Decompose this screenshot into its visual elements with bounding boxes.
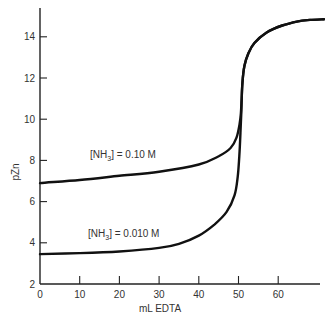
curves xyxy=(40,19,324,254)
x-tick-label: 40 xyxy=(193,289,205,300)
x-tick-label: 60 xyxy=(273,289,285,300)
x-tick-label: 30 xyxy=(154,289,166,300)
y-tick-label: 2 xyxy=(29,279,35,290)
curve-nh3-0.10M xyxy=(40,19,324,183)
titration-chart: 2468101214 0102030405060 [NH3] = 0.10 M … xyxy=(0,0,333,325)
x-tick-label: 10 xyxy=(74,289,86,300)
curve-nh3-0.010M xyxy=(40,19,324,254)
curve-label-0.10M: [NH3] = 0.10 M xyxy=(90,149,156,162)
y-tick-label: 8 xyxy=(29,155,35,166)
y-tick-label: 12 xyxy=(24,73,36,84)
x-axis-label: mL EDTA xyxy=(139,303,182,314)
x-tick-label: 50 xyxy=(233,289,245,300)
x-tick-label: 20 xyxy=(114,289,126,300)
y-tick-label: 10 xyxy=(24,114,36,125)
x-tick-label: 0 xyxy=(37,289,43,300)
x-ticks: 0102030405060 xyxy=(37,276,284,300)
curve-label-0.010M: [NH3] = 0.010 M xyxy=(88,228,159,241)
y-tick-label: 4 xyxy=(29,237,35,248)
y-axis-label: pZn xyxy=(10,163,21,180)
y-tick-label: 6 xyxy=(29,196,35,207)
y-tick-label: 14 xyxy=(24,31,36,42)
y-ticks: 2468101214 xyxy=(24,31,47,289)
